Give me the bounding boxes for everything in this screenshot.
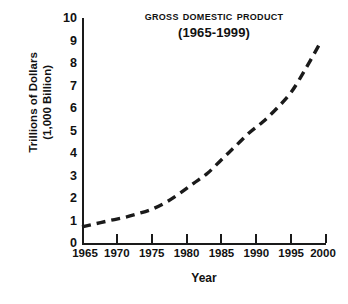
x-tick-label: 1980 [174, 247, 200, 259]
y-tick-label: 7 [70, 79, 77, 93]
y-axis-title-line1: Trillions of Dollars [27, 52, 39, 152]
x-tick-label: 1995 [278, 247, 304, 259]
y-tick-label: 8 [70, 56, 77, 70]
y-axis-title-line2: (1,000 Billion) [40, 2, 54, 202]
y-axis-title: Trillions of Dollars (1,000 Billion) [26, 2, 55, 202]
x-tick-label: 1975 [139, 247, 165, 259]
y-tick-label: 4 [70, 146, 77, 160]
x-tick-label: 1990 [243, 247, 269, 259]
y-tick-label: 3 [70, 169, 77, 183]
y-tick-label: 2 [70, 191, 77, 205]
gdp-chart-figure: Gross Domestic Product (1965-1999) Trill… [0, 0, 348, 304]
y-tick-label: 9 [70, 34, 77, 48]
y-tick-label: 6 [70, 101, 77, 115]
y-tick-label: 5 [70, 124, 77, 138]
y-tick-label: 1 [70, 214, 77, 228]
x-tick-label: 2000 [310, 247, 336, 259]
plot-area: 012345678910 196519701975198019851990199… [82, 18, 326, 243]
y-tick-label: 10 [63, 11, 77, 25]
x-axis-title: Year [82, 271, 326, 285]
x-tick-label: 1970 [104, 247, 130, 259]
gdp-curve-path [82, 45, 319, 227]
gdp-line-series [82, 18, 326, 245]
x-tick-label: 1965 [72, 247, 98, 259]
x-tick-label: 1985 [209, 247, 235, 259]
